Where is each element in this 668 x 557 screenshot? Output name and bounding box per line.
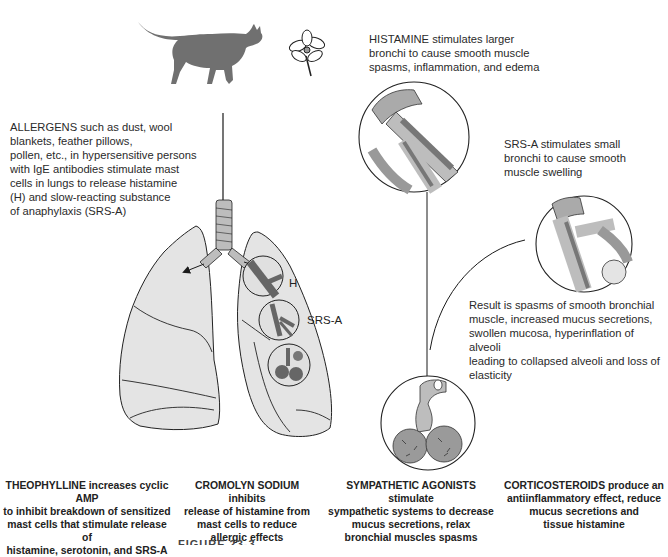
result-line: leading to collapsed alveoli and loss of <box>469 354 668 368</box>
drug-cromolyn-sodium: CROMOLYN SODIUM inhibits release of hist… <box>177 479 317 544</box>
drug-corticosteroids: CORTICOSTEROIDS produce an antiinflammat… <box>503 479 665 531</box>
histamine-line: bronchi to cause smooth muscle <box>369 46 539 60</box>
allergens-line: blankets, feather pillows, <box>10 134 197 148</box>
allergens-line: (H) and slow-reacting substance <box>10 190 197 204</box>
drug-line: THEOPHYLLINE increases cyclic AMP <box>2 479 172 505</box>
allergens-annotation: ALLERGENS such as dust, wool blankets, f… <box>10 120 197 218</box>
allergens-line: pollen, etc., in hypersensitive persons <box>10 148 197 162</box>
histamine-line: spasms, inflammation, and edema <box>369 60 539 74</box>
drug-line: CORTICOSTEROIDS produce an <box>503 479 665 492</box>
flower-icon <box>288 30 326 76</box>
drug-line: mucus secretions and <box>503 505 665 518</box>
result-line: elasticity <box>469 368 668 382</box>
histamine-bronchi-circle <box>359 82 469 192</box>
drug-theophylline: THEOPHYLLINE increases cyclic AMP to inh… <box>2 479 172 557</box>
alveoli-result-circle <box>381 376 475 470</box>
drug-line: SYMPATHETIC AGONISTS stimulate <box>326 479 496 505</box>
drug-line: mucus secretions, relax <box>326 518 496 531</box>
drug-line: histamine, serotonin, and SRS-A <box>2 544 172 557</box>
result-line: muscle, increased mucus secretions, <box>469 312 668 326</box>
allergens-line: with IgE antibodies stimulate mast <box>10 162 197 176</box>
drug-sympathetic-agonists: SYMPATHETIC AGONISTS stimulate sympathet… <box>326 479 496 544</box>
result-annotation: Result is spasms of smooth bronchial mus… <box>469 298 668 382</box>
drug-line: sympathetic systems to decrease <box>326 505 496 518</box>
result-line: Result is spasms of smooth bronchial <box>469 298 668 312</box>
drug-line: CROMOLYN SODIUM inhibits <box>177 479 317 505</box>
srsa-annotation: SRS-A stimulates small bronchi to cause … <box>504 137 626 179</box>
histamine-line: HISTAMINE stimulates larger <box>369 32 539 46</box>
srsa-label: SRS-A <box>307 314 342 326</box>
left-lung <box>119 226 219 430</box>
allergens-line: ALLERGENS such as dust, wool <box>10 120 197 134</box>
drug-line: mast cells that stimulate release of <box>2 518 172 544</box>
drug-line: tissue histamine <box>503 518 665 531</box>
cat-icon <box>138 22 262 84</box>
drug-line: release of histamine from <box>177 505 317 518</box>
srsa-bronchi-circle <box>536 196 632 292</box>
trachea <box>200 200 250 268</box>
histamine-annotation: HISTAMINE stimulates larger bronchi to c… <box>369 32 539 74</box>
drug-line: antiinflammatory effect, reduce <box>503 492 665 505</box>
srsa-line: SRS-A stimulates small <box>504 137 626 151</box>
figure-caption: FIGURE 23-3 <box>178 538 256 545</box>
drug-line: to inhibit breakdown of sensitized <box>2 505 172 518</box>
drug-line: bronchial muscles spasms <box>326 531 496 544</box>
allergens-line: cells in lungs to release histamine <box>10 176 197 190</box>
histamine-label: H <box>289 277 297 289</box>
srsa-line: bronchi to cause smooth <box>504 151 626 165</box>
result-line: swollen mucosa, hyperinflation of alveol… <box>469 326 668 354</box>
drug-line: mast cells to reduce <box>177 518 317 531</box>
allergens-line: of anaphylaxis (SRS-A) <box>10 204 197 218</box>
srsa-line: muscle swelling <box>504 165 626 179</box>
